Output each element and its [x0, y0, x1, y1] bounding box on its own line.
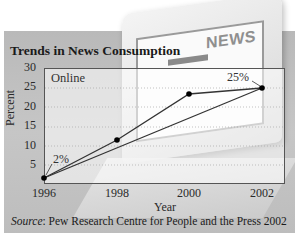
series-label: Online [51, 71, 85, 86]
annotation-end: 25% [227, 70, 249, 85]
x-tick: 2002 [250, 186, 274, 201]
y-tick: 25 [16, 79, 36, 94]
source-label: Source [11, 215, 43, 227]
x-tick: 2000 [177, 186, 201, 201]
source-note: Source: Pew Research Centre for People a… [11, 215, 287, 227]
y-tick: 30 [16, 60, 36, 75]
x-axis-label: Year [154, 200, 176, 215]
x-tick: 1998 [105, 186, 129, 201]
x-tick: 1996 [32, 186, 56, 201]
y-tick: 5 [16, 157, 36, 172]
line-plot [0, 0, 295, 238]
source-text: : Pew Research Centre for People and the… [43, 215, 287, 227]
y-tick: 20 [16, 99, 36, 114]
y-tick: 10 [16, 138, 36, 153]
y-axis-label: Percent [3, 90, 18, 126]
gridlines [45, 88, 284, 165]
y-tick: 15 [16, 118, 36, 133]
annotation-start: 2% [53, 152, 69, 167]
trend-line [44, 88, 262, 178]
annotation-leader-end [252, 81, 260, 86]
annotation-leader-start [46, 164, 52, 175]
